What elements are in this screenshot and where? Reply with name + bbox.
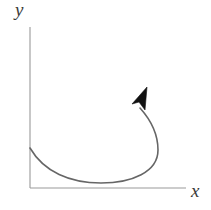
y-axis-label: y	[15, 0, 23, 19]
trajectory-group	[30, 87, 158, 183]
axes-group	[30, 27, 186, 188]
arrowhead-icon	[132, 87, 147, 110]
x-axis-label: x	[191, 181, 199, 200]
trajectory-curve	[30, 108, 158, 183]
diagram-svg	[0, 0, 211, 210]
figure-canvas: y x	[0, 0, 211, 210]
